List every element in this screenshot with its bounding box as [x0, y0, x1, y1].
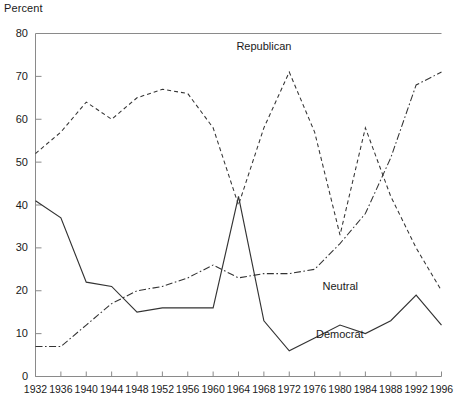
series-line-democrat — [36, 196, 442, 350]
y-axis-tick-label: 40 — [0, 200, 28, 211]
series-line-republican — [36, 72, 442, 291]
series-line-neutral — [36, 72, 442, 346]
y-axis-tick-label: 80 — [0, 28, 28, 39]
y-axis-tick-label: 10 — [0, 328, 28, 339]
y-axis-tick-label: 20 — [0, 285, 28, 296]
series-label-neutral: Neutral — [323, 280, 358, 292]
plot-frame — [36, 34, 442, 377]
y-axis-tick-label: 0 — [0, 371, 28, 382]
series-label-democrat: Democrat — [316, 328, 364, 340]
y-axis-tick-label: 50 — [0, 157, 28, 168]
y-axis-tick-label: 60 — [0, 114, 28, 125]
y-axis-tick-label: 70 — [0, 71, 28, 82]
x-axis-tick-label: 1996 — [425, 384, 458, 395]
y-axis-tick-label: 30 — [0, 242, 28, 253]
series-label-republican: Republican — [236, 40, 291, 52]
